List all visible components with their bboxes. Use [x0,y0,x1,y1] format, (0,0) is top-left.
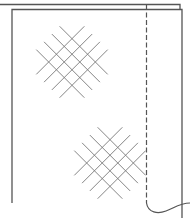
hatch-line [98,127,146,175]
crosshatch-lower [74,127,145,198]
crosshatch-upper [36,26,107,97]
hatch-line [44,42,92,90]
hatch-line [36,26,84,74]
hatch-line [74,127,122,175]
hatch-line [90,143,138,191]
front-panel-outline [12,10,182,219]
hatch-line [90,135,138,183]
hatch-line [60,50,108,98]
hatch-line [82,143,130,191]
hatch-line [98,151,146,199]
hatch-line [52,42,100,90]
back-panel-outline [0,5,180,10]
hatch-line [82,135,130,183]
hatch-line [60,26,108,74]
hatch-line [36,50,84,98]
sewing-diagram [0,0,190,223]
hatch-line [74,151,122,199]
hatch-line [44,34,92,82]
seam-wave-end [147,203,191,212]
hatch-line [52,34,100,82]
